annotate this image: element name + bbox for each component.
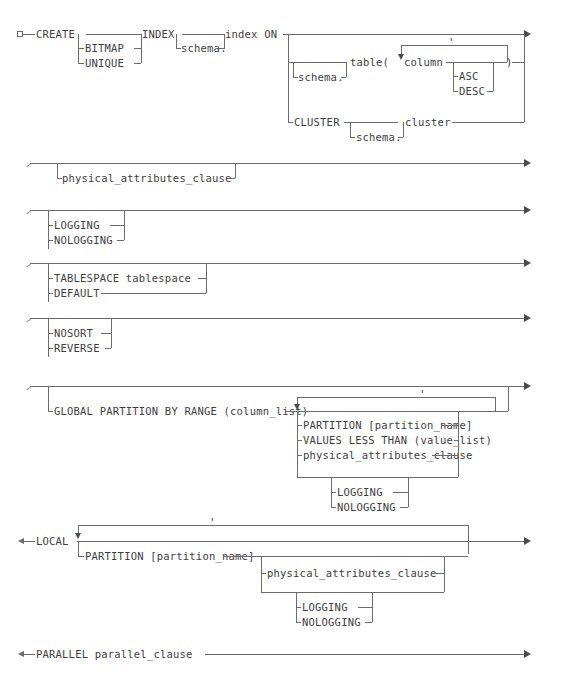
rail: [444, 556, 445, 592]
rail: [372, 592, 373, 622]
rail: [101, 333, 111, 334]
rail: [235, 163, 236, 178]
rail: [400, 507, 408, 508]
rail: [453, 91, 458, 92]
rail: [48, 263, 49, 302]
rail: [141, 48, 142, 63]
token-physical-attributes-3: physical_attributes_clause: [267, 568, 437, 579]
rail: [78, 48, 84, 49]
token-comma: ': [448, 37, 455, 48]
token-cluster-kw: CLUSTER: [294, 117, 340, 128]
rail: [57, 163, 58, 178]
rail: [432, 455, 458, 456]
rail: [261, 556, 262, 592]
end-arrow: [524, 259, 531, 267]
rail: [350, 122, 351, 137]
rail: [48, 293, 53, 294]
rail: [48, 411, 53, 412]
loop-arrow: [398, 54, 404, 60]
rail: [261, 592, 444, 593]
token-table-paren: table(: [350, 57, 389, 68]
token-comma: ': [209, 517, 216, 528]
token-schema-table: schema.: [298, 72, 344, 83]
token-local: LOCAL: [36, 536, 69, 547]
rail: [441, 425, 458, 426]
end-arrow: [524, 159, 531, 167]
rail: [524, 34, 525, 62]
rail: [297, 397, 495, 398]
rail: [229, 178, 235, 179]
rail: [331, 492, 336, 493]
rail: [134, 63, 141, 64]
end-arrow: [524, 650, 531, 658]
continuation-tick: [26, 264, 31, 268]
rail: [30, 210, 524, 211]
rail: [48, 240, 53, 241]
rail: [78, 63, 84, 64]
rail: [141, 34, 142, 48]
rail: [77, 541, 524, 542]
end-arrow: [524, 314, 531, 322]
rail: [124, 210, 125, 240]
end-arrow: [524, 382, 531, 390]
token-physical-attributes-1: physical_attributes_clause: [62, 173, 232, 184]
end-arrow: [524, 206, 531, 214]
rail: [297, 411, 298, 477]
rail: [182, 34, 224, 35]
rail: [487, 91, 493, 92]
rail: [48, 386, 49, 411]
rail: [296, 622, 301, 623]
rail: [78, 525, 468, 526]
rail: [453, 76, 458, 77]
rail: [78, 556, 84, 557]
continuation-tick: [26, 387, 31, 391]
token-parallel: PARALLEL parallel_clause: [36, 649, 193, 660]
loop-arrow: [294, 404, 300, 410]
rail: [23, 34, 35, 35]
rail: [350, 137, 355, 138]
rail: [205, 654, 524, 655]
token-asc: ASC: [459, 71, 479, 82]
rail: [30, 318, 524, 319]
rail: [293, 62, 346, 63]
rail: [283, 34, 524, 35]
rail: [134, 48, 141, 49]
rail: [86, 34, 141, 35]
token-nologging-1: NOLOGGING: [54, 235, 113, 246]
token-unique: UNIQUE: [85, 58, 124, 69]
token-comma: ': [419, 389, 426, 400]
token-tablespace: TABLESPACE tablespace: [54, 273, 191, 284]
rail: [344, 122, 398, 123]
token-desc: DESC: [459, 86, 485, 97]
token-values-less-than: VALUES LESS THAN (value_list): [303, 435, 492, 446]
token-bitmap: BITMAP: [85, 43, 124, 54]
rail: [446, 62, 507, 63]
rail: [223, 556, 468, 557]
rail: [393, 492, 408, 493]
rail: [78, 541, 79, 556]
end-arrow: [524, 537, 531, 545]
rail: [48, 210, 49, 249]
rail: [117, 240, 124, 241]
token-nologging-2: NOLOGGING: [337, 502, 396, 513]
rail: [206, 263, 207, 293]
rail: [288, 34, 289, 122]
rail: [224, 34, 225, 49]
token-column: column: [404, 57, 443, 68]
rail: [48, 278, 53, 279]
rail: [452, 122, 524, 123]
rail: [341, 77, 346, 78]
rail: [458, 411, 459, 477]
rail: [398, 137, 403, 138]
rail: [508, 386, 509, 411]
rail: [48, 348, 53, 349]
rail: [297, 455, 302, 456]
token-nologging-3: NOLOGGING: [302, 617, 361, 628]
rail: [297, 477, 458, 478]
token-global-partition: GLOBAL PARTITION BY RANGE (column_list): [54, 406, 308, 417]
rail: [346, 62, 347, 77]
rail: [48, 225, 53, 226]
rail: [198, 278, 206, 279]
loop-arrow: [75, 533, 81, 539]
end-arrow: [524, 30, 531, 38]
